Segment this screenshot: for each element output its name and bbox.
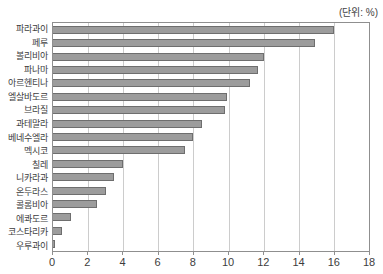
bar-row	[53, 211, 369, 224]
x-tick-label: 8	[190, 256, 196, 268]
bar-row	[53, 144, 369, 157]
category-label: 과테말라	[0, 117, 48, 131]
x-tick-mark	[158, 252, 159, 255]
bar	[53, 26, 334, 34]
bar-row	[53, 50, 369, 63]
bar-row	[53, 23, 369, 36]
bar-row	[53, 77, 369, 90]
category-label: 브라질	[0, 103, 48, 117]
x-tick-mark	[52, 252, 53, 255]
category-label: 베네수엘라	[0, 130, 48, 144]
x-tick-mark	[122, 252, 123, 255]
x-axis-labels: 024681012141618	[52, 256, 369, 270]
x-tick-mark	[299, 252, 300, 255]
x-tick-mark	[228, 252, 229, 255]
x-tick-label: 18	[363, 256, 375, 268]
bar-row	[53, 130, 369, 143]
bar-row	[53, 197, 369, 210]
bar	[53, 66, 258, 74]
x-tick-mark	[193, 252, 194, 255]
bar	[53, 227, 62, 235]
x-tick-mark	[334, 252, 335, 255]
bar-row	[53, 63, 369, 76]
bar	[53, 93, 227, 101]
x-tick-label: 2	[84, 256, 90, 268]
bar	[53, 200, 97, 208]
bar	[53, 173, 114, 181]
x-tick-label: 16	[328, 256, 340, 268]
category-label: 멕시코	[0, 144, 48, 158]
bar	[53, 240, 55, 248]
bar	[53, 39, 315, 47]
bar	[53, 79, 250, 87]
bar	[53, 187, 106, 195]
bar	[53, 106, 225, 114]
category-label: 칠레	[0, 157, 48, 171]
x-tick-mark	[87, 252, 88, 255]
category-label: 아르헨티나	[0, 76, 48, 90]
bar-row	[53, 224, 369, 237]
category-label: 우루과이	[0, 239, 48, 253]
category-label: 온두라스	[0, 184, 48, 198]
bar-row	[53, 238, 369, 251]
category-label: 파라과이	[0, 22, 48, 36]
category-label: 페루	[0, 36, 48, 50]
bar	[53, 213, 71, 221]
bar	[53, 146, 185, 154]
category-label: 볼리비아	[0, 49, 48, 63]
plot-area	[52, 22, 370, 252]
x-tick-mark	[263, 252, 264, 255]
x-tick-label: 12	[257, 256, 269, 268]
category-axis: 파라과이페루볼리비아파나마아르헨티나엘살바도르브라질과테말라베네수엘라멕시코칠레…	[0, 22, 48, 252]
bar-row	[53, 170, 369, 183]
bar-chart-figure: (단위: %) 파라과이페루볼리비아파나마아르헨티나엘살바도르브라질과테말라베네…	[0, 0, 383, 274]
category-label: 니카라과	[0, 171, 48, 185]
category-label: 콜롬비아	[0, 198, 48, 212]
bar	[53, 160, 123, 168]
x-tick-mark	[369, 252, 370, 255]
bar-row	[53, 103, 369, 116]
x-tick-label: 10	[222, 256, 234, 268]
bar-row	[53, 36, 369, 49]
x-tick-label: 14	[292, 256, 304, 268]
bar-row	[53, 90, 369, 103]
bar-row	[53, 117, 369, 130]
x-tick-label: 0	[49, 256, 55, 268]
unit-label: (단위: %)	[339, 4, 378, 19]
category-label: 파나마	[0, 63, 48, 77]
bar	[53, 53, 264, 61]
x-tick-label: 6	[155, 256, 161, 268]
bar	[53, 120, 202, 128]
bar-row	[53, 184, 369, 197]
category-label: 엘살바도르	[0, 90, 48, 104]
bar-series	[53, 23, 369, 251]
bar-row	[53, 157, 369, 170]
category-label: 에콰도르	[0, 211, 48, 225]
bar	[53, 133, 193, 141]
category-label: 코스타리카	[0, 225, 48, 239]
x-tick-label: 4	[119, 256, 125, 268]
